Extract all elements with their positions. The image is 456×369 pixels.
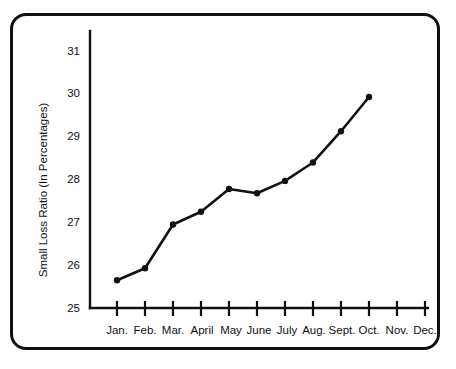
- y-axis-tick-labels: 31 30 29 28 27 26 25: [67, 45, 80, 314]
- y-tick-label: 28: [67, 173, 80, 185]
- y-tick-label: 27: [67, 216, 80, 228]
- y-tick-label: 30: [67, 87, 80, 99]
- data-point-marker: [226, 186, 232, 192]
- x-tick-label-june: June: [247, 324, 272, 336]
- x-tick-label-sept: Sept.: [329, 324, 356, 336]
- data-point-marker: [338, 128, 344, 134]
- x-tick-label-may: May: [220, 324, 242, 336]
- x-tick-label-april: April: [190, 324, 213, 336]
- y-tick-label: 29: [67, 130, 80, 142]
- y-tick-label: 26: [67, 259, 80, 271]
- chart-figure: Small Loss Ratio (In Percentages) 31 30 …: [0, 0, 456, 369]
- x-axis-tick-labels: Jan. Feb. Mar. April May June July Aug. …: [106, 324, 437, 336]
- data-point-marker: [198, 209, 204, 215]
- x-tick-label-feb: Feb.: [133, 324, 156, 336]
- series-line-path: [117, 97, 369, 280]
- x-tick-label-mar: Mar.: [162, 324, 184, 336]
- data-point-marker: [254, 190, 260, 196]
- x-tick-label-aug: Aug.: [302, 324, 326, 336]
- x-tick-label-dec: Dec.: [413, 324, 437, 336]
- x-tick-label-nov: Nov.: [386, 324, 409, 336]
- y-tick-label: 25: [67, 302, 80, 314]
- x-tick-label-jan: Jan.: [106, 324, 128, 336]
- data-point-marker: [170, 221, 176, 227]
- line-chart: Small Loss Ratio (In Percentages) 31 30 …: [0, 0, 456, 369]
- data-point-marker: [114, 277, 120, 283]
- x-tick-label-oct: Oct.: [358, 324, 379, 336]
- data-point-marker: [282, 178, 288, 184]
- data-series-small-loss-ratio: [114, 94, 372, 284]
- data-point-marker: [310, 159, 316, 165]
- x-tick-label-july: July: [277, 324, 298, 336]
- y-tick-label: 31: [67, 45, 80, 57]
- data-point-marker: [366, 94, 372, 100]
- y-axis-title: Small Loss Ratio (In Percentages): [37, 103, 49, 278]
- data-point-marker: [142, 265, 148, 271]
